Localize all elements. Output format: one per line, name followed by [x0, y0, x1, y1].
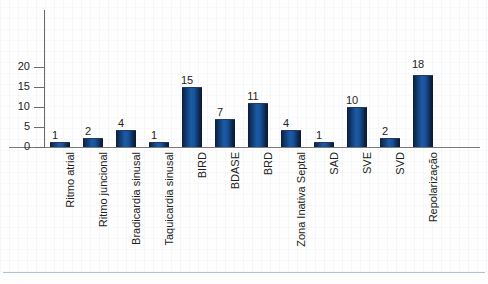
bar-value-brd: 11	[238, 90, 268, 102]
bar-value-sad: 1	[304, 129, 334, 141]
bar-sad[interactable]	[314, 142, 334, 147]
y-tick-label-20: 20	[0, 61, 30, 72]
x-label-taquicardia-sinusal: Taquicardia sinusal	[163, 152, 175, 246]
y-tick-label-15: 15	[0, 81, 30, 92]
bar-value-ritmo-juncional: 2	[73, 125, 103, 137]
y-tick-label-5: 5	[0, 121, 30, 132]
x-axis-line	[9, 147, 480, 148]
x-label-bradicardia-sinusal: Bradicardia sinusal	[130, 152, 142, 245]
bar-sve[interactable]	[347, 107, 367, 147]
bar-ritmo-atrial[interactable]	[50, 142, 70, 147]
bar-repolarizacao[interactable]	[413, 75, 433, 147]
bar-bdase[interactable]	[215, 119, 235, 147]
bar-value-bdase: 7	[205, 106, 235, 118]
bar-brd[interactable]	[248, 103, 268, 147]
bar-value-sve: 10	[337, 94, 367, 106]
bar-taquicardia-sinusal[interactable]	[149, 142, 169, 147]
bar-value-ritmo-atrial: 1	[40, 129, 70, 141]
x-label-brd: BRD	[262, 152, 274, 175]
y-tick-label-0: 0	[0, 141, 30, 152]
bar-value-zona-inativa-septal: 4	[271, 117, 301, 129]
footer-rule	[3, 272, 485, 273]
x-label-sad: SAD	[328, 152, 340, 175]
y-tick-10	[34, 107, 45, 108]
x-label-zona-inativa-septal: Zona Inativa Septal	[295, 152, 307, 247]
y-tick-0	[34, 147, 45, 148]
x-label-sve: SVE	[361, 152, 373, 174]
y-tick-5	[34, 127, 45, 128]
bar-bradicardia-sinusal[interactable]	[116, 130, 136, 147]
bar-chart-figure: 20 15 10 5 0 1 2 4 1 15 7 11 4 1 10 2 18…	[0, 0, 488, 284]
bar-zona-inativa-septal[interactable]	[281, 130, 301, 147]
bar-value-svd: 2	[370, 125, 400, 137]
y-tick-label-10: 10	[0, 101, 30, 112]
x-label-ritmo-juncional: Ritmo juncional	[97, 152, 109, 227]
bar-value-taquicardia-sinusal: 1	[139, 129, 169, 141]
x-label-repolarizacao: Repolarização	[427, 152, 439, 222]
x-label-bdase: BDASE	[229, 152, 241, 189]
y-tick-20	[34, 67, 45, 68]
bar-value-bradicardia-sinusal: 4	[106, 117, 136, 129]
x-label-bird: BIRD	[196, 152, 208, 178]
x-label-ritmo-atrial: Ritmo atrial	[64, 152, 76, 208]
bar-svd[interactable]	[380, 138, 400, 147]
bar-bird[interactable]	[182, 87, 202, 147]
bar-ritmo-juncional[interactable]	[83, 138, 103, 147]
x-label-svd: SVD	[394, 152, 406, 175]
bar-value-repolarizacao: 18	[403, 58, 433, 70]
bar-value-bird: 15	[172, 74, 202, 86]
y-tick-15	[34, 87, 45, 88]
